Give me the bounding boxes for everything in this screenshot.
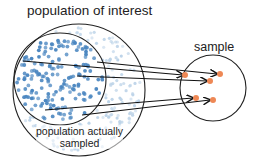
sampled-population-dot (74, 97, 78, 101)
population-dot (118, 96, 121, 99)
sampled-population-dot (65, 83, 69, 87)
population-dot (131, 93, 134, 96)
sampled-population-dot (82, 98, 86, 102)
sampled-population-dot (82, 91, 86, 95)
sampled-population-dot (88, 69, 92, 73)
sampled-population-dot (48, 84, 52, 88)
sampled-population-dot (15, 81, 19, 85)
sampling-arrow (77, 76, 207, 81)
sampled-population-dot (42, 75, 46, 79)
population-dot (128, 117, 131, 120)
sampled-population-dot (47, 55, 51, 59)
population-dot (79, 33, 82, 36)
sampled-population-dot (50, 42, 54, 46)
population-dot (128, 121, 131, 124)
sample-circle (180, 55, 246, 121)
sampled-population-dot (63, 39, 67, 43)
sample-point (217, 71, 223, 77)
population-dot (29, 116, 32, 119)
population-actually-sampled-line2: sampled (36, 137, 123, 149)
sampled-population-dot (56, 65, 60, 69)
sampled-population-dot (86, 77, 90, 81)
population-dot (105, 59, 108, 62)
population-dot (104, 93, 107, 96)
sampled-population-dot (50, 98, 54, 102)
sampled-population-dot (51, 73, 55, 77)
population-dot (96, 116, 99, 119)
sampled-population-dot (37, 48, 41, 52)
sampled-population-dot (94, 87, 98, 91)
sampled-population-dot (56, 73, 60, 77)
sample-point (193, 95, 199, 101)
population-dot (128, 112, 131, 115)
population-dot (117, 114, 120, 117)
population-dot (129, 97, 132, 100)
population-dot (116, 58, 119, 61)
sampled-population-dot (61, 86, 65, 90)
sampled-population-dot (49, 46, 53, 50)
sample-point (210, 97, 216, 103)
sampled-population-dot (76, 84, 80, 88)
sampled-population-dot (44, 71, 48, 75)
sampled-population-dot (75, 48, 79, 52)
sampled-population-dot (30, 108, 34, 112)
sampled-population-dot (43, 50, 47, 54)
sampled-population-dot (46, 99, 50, 103)
population-dot (116, 45, 119, 48)
sample-point (182, 72, 188, 78)
population-dot (110, 107, 113, 110)
population-of-interest-label: population of interest (27, 3, 152, 18)
sampled-population-dot (30, 89, 34, 93)
sampled-population-dot (100, 78, 104, 82)
sample-label: sample (194, 40, 234, 54)
population-dot (133, 104, 136, 107)
population-dot (90, 36, 93, 39)
sampled-population-dot (52, 93, 56, 97)
population-dot (101, 116, 104, 119)
sample-point (207, 78, 213, 84)
population-dot (131, 114, 134, 117)
sampled-population-dot (72, 39, 76, 43)
population-dot (138, 81, 141, 84)
sampled-population-dot (25, 55, 29, 59)
sampled-population-dot (97, 91, 101, 95)
sampled-population-dot (66, 40, 70, 44)
sampled-population-dot (22, 77, 26, 81)
sampled-population-dot (39, 41, 43, 45)
population-dot (111, 41, 114, 44)
population-dot (127, 52, 130, 55)
sampled-population-dot (54, 48, 58, 52)
sampled-population-dot (69, 116, 73, 120)
population-dot (109, 121, 112, 124)
sampled-population-dot (27, 84, 31, 88)
population-dot (118, 120, 121, 123)
sampled-population-dot (96, 78, 100, 82)
sampled-population-dot (34, 91, 38, 95)
sampled-population-dot (60, 65, 64, 69)
population-dot (119, 83, 122, 86)
population-dot (109, 114, 112, 117)
population-dot (70, 149, 73, 152)
population-dot (109, 84, 112, 87)
sampled-population-dot (17, 77, 21, 81)
population-dot (107, 100, 110, 103)
sampled-population-dot (20, 63, 24, 67)
sampled-population-dot (51, 115, 55, 119)
sampled-population-dot (46, 92, 50, 96)
population-dot (129, 84, 132, 87)
sampled-population-dot (40, 79, 44, 83)
sampled-population-dot (77, 92, 81, 96)
sampled-population-dot (30, 77, 34, 81)
population-dot (107, 65, 110, 68)
sampled-population-dot (61, 44, 65, 48)
sampled-population-dot (62, 113, 66, 117)
sampled-population-dot (89, 48, 93, 52)
sampled-population-dot (66, 45, 70, 49)
sampled-population-dot (68, 90, 72, 94)
sampled-population-dot (88, 95, 92, 99)
population-actually-sampled-label: population actually sampled (36, 125, 123, 149)
sampled-population-dot (67, 76, 71, 80)
population-dot (96, 109, 99, 112)
sampled-population-dot (17, 88, 21, 92)
sampled-population-dot (77, 45, 81, 49)
